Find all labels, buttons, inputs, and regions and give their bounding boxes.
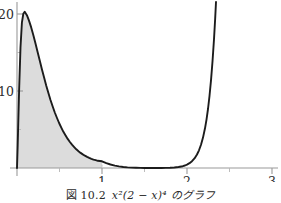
- caption-number: 図 10.2: [66, 189, 106, 202]
- x-axis-label-3: 3: [268, 174, 276, 182]
- axis-label-layer: 20 10 1 2 3: [0, 0, 281, 182]
- x-axis-label-2: 2: [183, 174, 191, 182]
- caption-expression: x²(2 − x)⁴ のグラフ: [112, 189, 216, 202]
- x-axis-label-1: 1: [98, 174, 106, 182]
- figure-caption: 図 10.2x²(2 − x)⁴ のグラフ: [0, 186, 281, 202]
- y-axis-label-10: 10: [0, 84, 14, 99]
- y-axis-label-20: 20: [0, 7, 14, 22]
- figure-container: 20 10 1 2 3 図 10.2x²(2 − x)⁴ のグラフ: [0, 0, 281, 203]
